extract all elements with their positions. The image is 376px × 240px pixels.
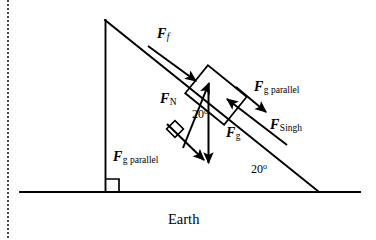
- physics-diagram-page: Ff FN Fg Fg parallel Fg parallel FSingh …: [0, 0, 376, 240]
- incline-base-angle-value: 20: [251, 162, 263, 176]
- incline-hypotenuse: [105, 20, 319, 192]
- label-gravity-parallel-right: Fg parallel: [254, 80, 299, 96]
- gravity-symbol: F: [226, 125, 235, 140]
- diagram-canvas: [0, 0, 376, 240]
- label-block-angle: 20o: [192, 108, 208, 120]
- friction-subscript: f: [166, 32, 169, 42]
- singh-symbol: F: [270, 117, 279, 132]
- gravity-parallel-right-subscript: g parallel: [263, 85, 299, 95]
- label-gravity-parallel-left: Fg parallel: [113, 150, 158, 166]
- gravity-parallel-right-symbol: F: [254, 79, 263, 94]
- block-angle-value: 20: [192, 107, 204, 121]
- degree-symbol-icon: o: [204, 107, 208, 116]
- gravity-parallel-left-arrow: [167, 124, 204, 160]
- label-incline-base-angle: 20o: [251, 163, 267, 175]
- label-normal-force: FN: [160, 92, 177, 108]
- gravity-subscript: g: [235, 131, 240, 141]
- gravity-parallel-left-subscript: g parallel: [122, 155, 158, 165]
- gravity-parallel-left-symbol: F: [113, 149, 122, 164]
- label-friction-force: Ff: [157, 27, 169, 43]
- right-angle-marker-block-icon: [167, 121, 184, 138]
- label-singh-force: FSingh: [270, 118, 302, 134]
- right-angle-marker-base-icon: [106, 179, 119, 192]
- normal-symbol: F: [160, 91, 169, 106]
- ground-label: Earth: [168, 212, 199, 227]
- friction-symbol: F: [157, 26, 166, 41]
- label-gravity-force: Fg: [226, 126, 241, 142]
- normal-subscript: N: [169, 97, 176, 107]
- degree-symbol-icon-2: o: [263, 162, 267, 171]
- singh-subscript: Singh: [279, 123, 302, 133]
- friction-force-arrow: [148, 46, 196, 81]
